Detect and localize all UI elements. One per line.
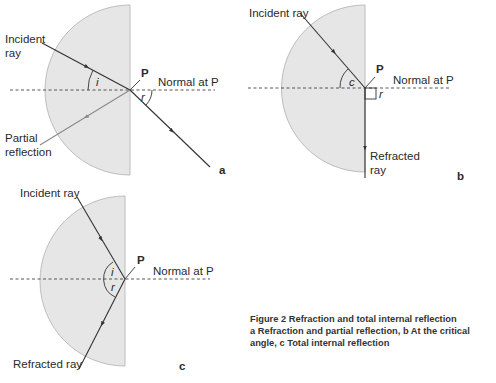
point-p-label-a: P (141, 67, 149, 79)
incident-label-b: Incident ray (249, 7, 309, 19)
angle-arc-r-a (146, 90, 152, 105)
caption-line-3: angle, c Total internal reflection (250, 337, 495, 349)
incident-label-c: Incident ray (20, 187, 80, 199)
normal-label-b: Normal at P (393, 74, 454, 86)
panel-c: Incident ray P Normal at P i r Refracted… (10, 187, 214, 372)
figure-caption: Figure 2 Refraction and total internal r… (250, 313, 495, 349)
angle-r-label-a: r (141, 91, 146, 103)
incident-label-a: Incident (5, 33, 46, 45)
svg-text:ray: ray (370, 164, 386, 176)
caption-line-2: a Refraction and partial reflection, b A… (250, 325, 495, 337)
right-angle-marker-b (365, 88, 376, 99)
angle-i-label-a: i (96, 76, 99, 88)
point-p-label-c: P (137, 254, 145, 266)
svg-text:reflection: reflection (5, 146, 52, 158)
angle-c-label-b: c (349, 76, 355, 88)
angle-r-label-b: r (379, 88, 384, 100)
reflection-label-a: Partial (5, 132, 38, 144)
svg-text:ray: ray (5, 47, 21, 59)
refracted-label-b: Refracted (370, 150, 420, 162)
normal-label-a: Normal at P (158, 76, 219, 88)
panel-b: Incident ray P Normal at P c r Refracted… (248, 5, 464, 182)
panel-label-c: c (179, 360, 186, 372)
refracted-label-c: Refracted ray (13, 358, 82, 370)
panel-a: Incident ray P Normal at P i r Partial r… (5, 5, 226, 176)
caption-title: Figure 2 Refraction and total internal r… (250, 313, 495, 325)
point-p-label-b: P (376, 63, 384, 75)
angle-i-label-c: i (111, 266, 114, 278)
panel-label-b: b (457, 170, 464, 182)
normal-label-c: Normal at P (153, 265, 214, 277)
glass-block-b (282, 5, 365, 172)
panel-label-a: a (219, 164, 226, 176)
